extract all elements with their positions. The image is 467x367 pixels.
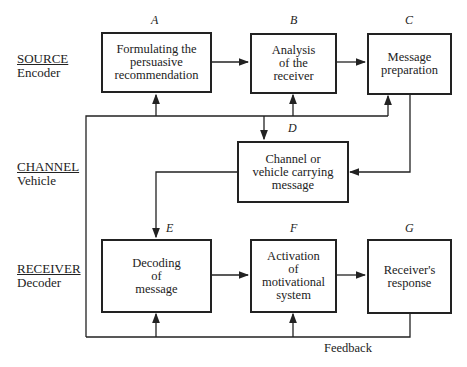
box-g-response: Receiver's response (367, 239, 452, 314)
box-b-analysis: Analysis of the receiver (250, 33, 337, 94)
row-subtitle: Decoder (17, 275, 61, 290)
box-d-channel: Channel or vehicle carrying message (237, 141, 349, 203)
box-letter-e: E (166, 221, 173, 236)
box-text: Formulating the persuasive recommendatio… (115, 43, 199, 82)
feedback-label: Feedback (324, 341, 372, 356)
box-text: Receiver's response (384, 264, 436, 290)
row-title: RECEIVER (17, 262, 81, 276)
row-label-receiver: RECEIVER Decoder (17, 262, 81, 290)
box-letter-c: C (405, 13, 413, 28)
box-letter-b: B (290, 13, 297, 28)
row-title: CHANNEL (17, 160, 79, 174)
row-label-source: SOURCE Encoder (17, 52, 68, 80)
row-subtitle: Encoder (17, 65, 60, 80)
box-text: Activation of motivational system (262, 250, 325, 302)
box-letter-g: G (405, 221, 414, 236)
box-f-activation: Activation of motivational system (250, 239, 337, 313)
box-text: Message preparation (381, 51, 438, 77)
box-text: Analysis of the receiver (272, 44, 316, 83)
box-a-formulating: Formulating the persuasive recommendatio… (101, 32, 212, 93)
box-e-decoding: Decoding of message (101, 239, 212, 313)
row-label-channel: CHANNEL Vehicle (17, 160, 79, 188)
row-title: SOURCE (17, 52, 68, 66)
row-subtitle: Vehicle (17, 173, 56, 188)
box-letter-a: A (151, 13, 158, 28)
box-letter-d: D (288, 121, 297, 136)
box-text: Channel or vehicle carrying message (253, 153, 334, 192)
box-letter-f: F (290, 221, 297, 236)
box-c-message-preparation: Message preparation (367, 33, 452, 95)
box-text: Decoding of message (132, 257, 181, 296)
